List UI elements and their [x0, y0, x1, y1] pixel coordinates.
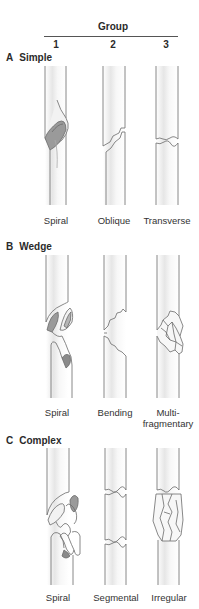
label-c1: Spiral: [28, 592, 88, 603]
label-b2: Bending: [85, 407, 145, 418]
fracture-c3-irregular: [153, 448, 183, 585]
label-b3-line1: Multi-: [138, 407, 198, 418]
fracture-b3-multifragmentary-wedge: [157, 255, 183, 398]
label-b1: Spiral: [27, 407, 87, 418]
label-c2: Segmental: [86, 592, 146, 603]
label-a1: Spiral: [26, 215, 86, 226]
fracture-illustrations: [0, 0, 199, 609]
fracture-c2-segmental: [105, 448, 126, 585]
fracture-c1-spiral-complex: [47, 448, 80, 585]
fracture-b1-spiral-wedge: [46, 255, 73, 398]
label-c3: Irregular: [139, 592, 199, 603]
label-a3: Transverse: [137, 215, 197, 226]
label-b3: Multi- fragmentary: [138, 407, 198, 429]
fracture-a3-transverse: [156, 66, 178, 205]
fracture-a2-oblique: [103, 66, 125, 205]
label-a2: Oblique: [84, 215, 144, 226]
fracture-b2-bending-wedge: [104, 255, 126, 398]
label-b3-line2: fragmentary: [138, 418, 198, 429]
fracture-a1-spiral: [45, 66, 68, 205]
